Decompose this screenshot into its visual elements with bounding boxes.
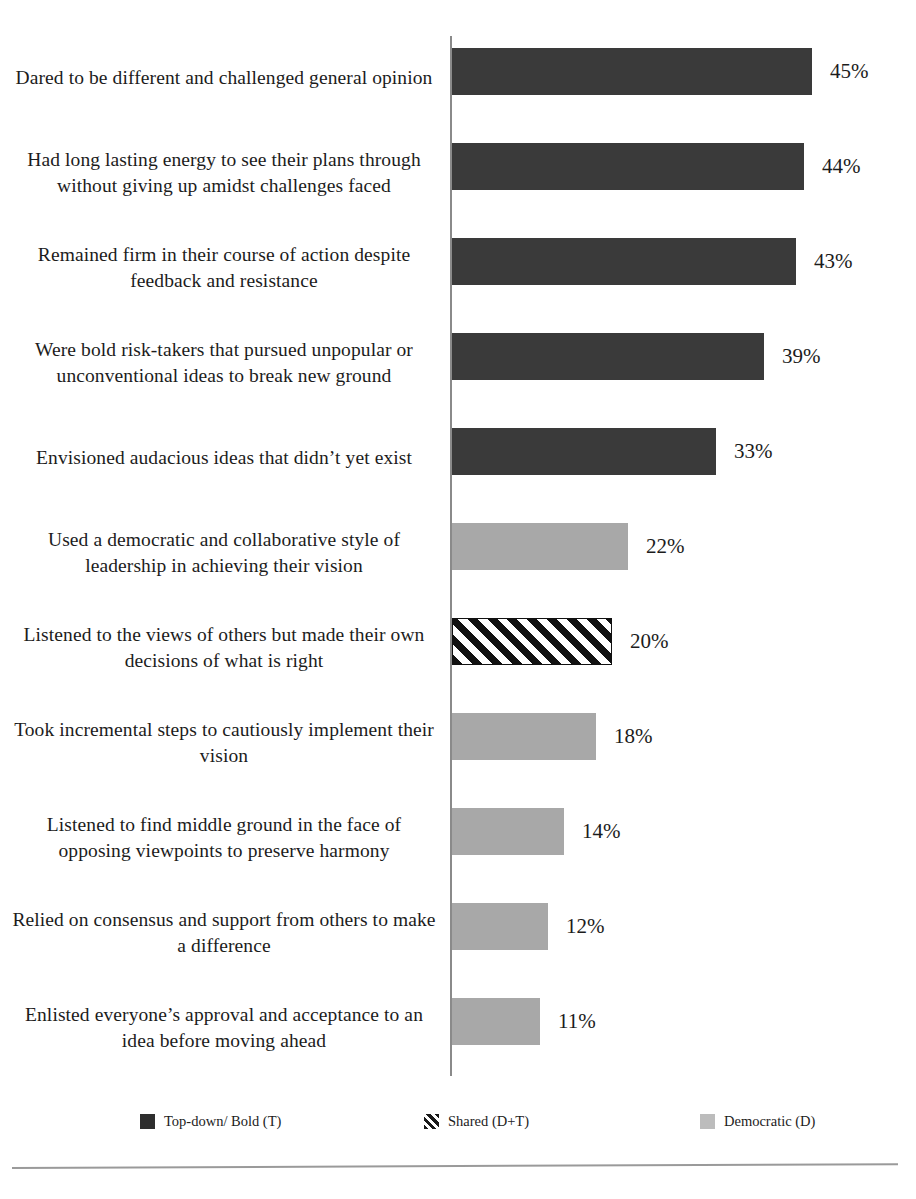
bar-value-label: 20% — [630, 618, 669, 665]
category-label: Envisioned audacious ideas that didn’t y… — [10, 445, 438, 471]
bar-row: Listened to find middle ground in the fa… — [0, 790, 916, 885]
bar-democratic — [452, 713, 596, 760]
category-label: Listened to the views of others but made… — [10, 622, 438, 674]
category-label: Listened to find middle ground in the fa… — [10, 812, 438, 864]
bar-democratic — [452, 998, 540, 1045]
bar-value-label: 12% — [566, 903, 605, 950]
legend-swatch-icon — [140, 1114, 155, 1129]
legend-swatch-icon — [424, 1114, 439, 1129]
legend-item[interactable]: Top-down/ Bold (T) — [140, 1109, 281, 1133]
legend-label: Democratic (D) — [724, 1113, 815, 1130]
bar-democratic — [452, 903, 548, 950]
bar-row: Remained firm in their course of action … — [0, 220, 916, 315]
legend-item[interactable]: Democratic (D) — [700, 1109, 815, 1133]
bar-democratic — [452, 523, 628, 570]
bar-topdown — [452, 333, 764, 380]
bar-value-label: 43% — [814, 238, 853, 285]
category-label: Enlisted everyone’s approval and accepta… — [10, 1002, 438, 1054]
bar-row: Dared to be different and challenged gen… — [0, 30, 916, 125]
bar-row: Envisioned audacious ideas that didn’t y… — [0, 410, 916, 505]
bar-topdown — [452, 428, 716, 475]
bar-value-label: 33% — [734, 428, 773, 475]
bar-topdown — [452, 143, 804, 190]
category-label: Had long lasting energy to see their pla… — [10, 147, 438, 199]
bar-shared — [452, 618, 612, 665]
bar-value-label: 22% — [646, 523, 685, 570]
plot-area: Dared to be different and challenged gen… — [0, 30, 916, 1075]
category-label: Relied on consensus and support from oth… — [10, 907, 438, 959]
category-label: Dared to be different and challenged gen… — [10, 65, 438, 91]
bar-row: Had long lasting energy to see their pla… — [0, 125, 916, 220]
category-label: Used a democratic and collaborative styl… — [10, 527, 438, 579]
bar-topdown — [452, 238, 796, 285]
footer-divider — [12, 1163, 898, 1169]
bar-democratic — [452, 808, 564, 855]
category-label: Were bold risk-takers that pursued unpop… — [10, 337, 438, 389]
bar-topdown — [452, 48, 812, 95]
legend-swatch-icon — [700, 1114, 715, 1129]
bar-value-label: 14% — [582, 808, 621, 855]
bar-value-label: 11% — [558, 998, 596, 1045]
category-label: Remained firm in their course of action … — [10, 242, 438, 294]
legend-label: Shared (D+T) — [448, 1113, 529, 1130]
bar-row: Used a democratic and collaborative styl… — [0, 505, 916, 600]
bar-row: Enlisted everyone’s approval and accepta… — [0, 980, 916, 1075]
bar-row: Listened to the views of others but made… — [0, 600, 916, 695]
bar-row: Were bold risk-takers that pursued unpop… — [0, 315, 916, 410]
chart-legend: Top-down/ Bold (T)Shared (D+T)Democratic… — [0, 1105, 916, 1139]
category-label: Took incremental steps to cautiously imp… — [10, 717, 438, 769]
bar-row: Took incremental steps to cautiously imp… — [0, 695, 916, 790]
bar-value-label: 39% — [782, 333, 821, 380]
legend-label: Top-down/ Bold (T) — [164, 1113, 281, 1130]
bar-row: Relied on consensus and support from oth… — [0, 885, 916, 980]
bar-value-label: 44% — [822, 143, 861, 190]
bar-value-label: 18% — [614, 713, 653, 760]
bar-value-label: 45% — [830, 48, 869, 95]
horizontal-bar-chart: Dared to be different and challenged gen… — [0, 0, 916, 1199]
legend-item[interactable]: Shared (D+T) — [424, 1109, 529, 1133]
